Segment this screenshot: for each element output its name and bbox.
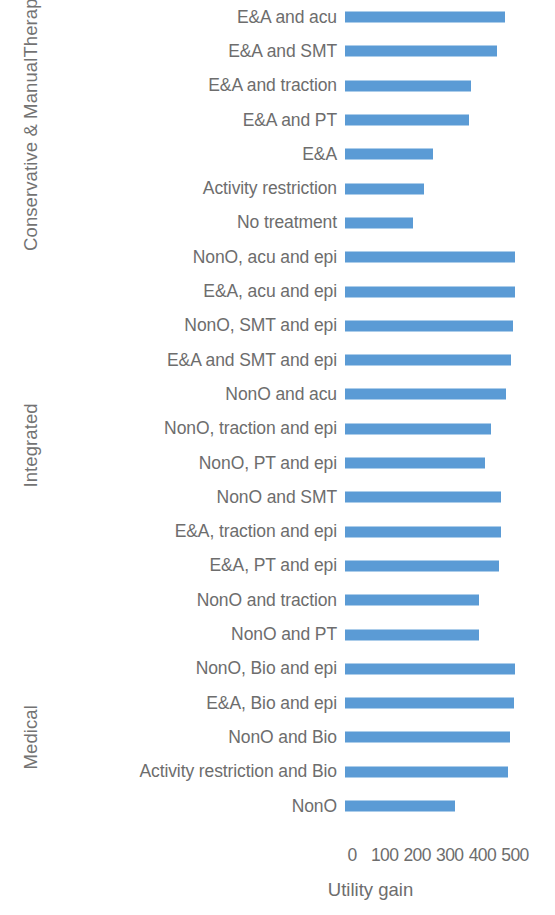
x-tick-label: 500	[501, 845, 528, 866]
category-label: NonO	[62, 796, 345, 817]
bar-track	[345, 274, 555, 308]
bar-row: NonO and SMT	[62, 480, 555, 514]
bar-track	[345, 720, 555, 754]
category-label: E&A, PT and epi	[62, 555, 345, 576]
group-label-conservative-manual-therapy: Conservative & ManualTherapy	[2, 0, 60, 240]
plot-area: E&A and acuE&A and SMTE&A and tractionE&…	[62, 0, 555, 845]
bar-row: NonO, traction and epi	[62, 412, 555, 446]
bar	[345, 423, 491, 434]
bar-row: E&A and acu	[62, 0, 555, 34]
category-label: NonO and Bio	[62, 727, 345, 748]
bar	[345, 115, 469, 126]
bar-track	[345, 412, 555, 446]
bar-row: Activity restriction	[62, 172, 555, 206]
category-label: NonO, acu and epi	[62, 247, 345, 268]
category-label: NonO, SMT and epi	[62, 315, 345, 336]
bar-row: E&A, Bio and epi	[62, 686, 555, 720]
bar-track	[345, 377, 555, 411]
bar-track	[345, 686, 555, 720]
bar-track	[345, 549, 555, 583]
bar	[345, 320, 513, 331]
category-label: NonO and acu	[62, 384, 345, 405]
bar-row: NonO	[62, 789, 555, 823]
bar-row: NonO and Bio	[62, 720, 555, 754]
bar	[345, 629, 479, 640]
bar-row: NonO and traction	[62, 583, 555, 617]
category-label: E&A and SMT	[62, 41, 345, 62]
x-axis-title: Utility gain	[62, 879, 555, 901]
bar-row: NonO and acu	[62, 377, 555, 411]
category-label: E&A	[62, 144, 345, 165]
category-label: No treatment	[62, 212, 345, 233]
x-axis-title-text: Utility gain	[328, 879, 413, 901]
category-label: E&A and SMT and epi	[62, 350, 345, 371]
bar	[345, 663, 515, 674]
category-label: NonO, Bio and epi	[62, 658, 345, 679]
bar-row: E&A, PT and epi	[62, 549, 555, 583]
bar	[345, 526, 501, 537]
bar-track	[345, 137, 555, 171]
value-axis: 0100200300400500	[62, 845, 555, 873]
category-label: NonO and PT	[62, 624, 345, 645]
bar	[345, 458, 485, 469]
group-label-line: Therapy	[20, 0, 42, 58]
category-label: NonO, traction and epi	[62, 418, 345, 439]
group-label-line: Conservative & Manual	[20, 58, 42, 251]
category-label: Activity restriction	[62, 178, 345, 199]
bar-track	[345, 240, 555, 274]
bar-track	[345, 480, 555, 514]
bar-row: E&A and SMT	[62, 34, 555, 68]
group-label-integrated: Integrated	[14, 240, 48, 652]
bar-track	[345, 515, 555, 549]
category-label: E&A and traction	[62, 75, 345, 96]
bar-row: E&A	[62, 137, 555, 171]
bar	[345, 46, 497, 57]
bar-row: NonO, PT and epi	[62, 446, 555, 480]
bar-row: No treatment	[62, 206, 555, 240]
x-tick-label: 400	[469, 845, 496, 866]
bar	[345, 12, 505, 23]
bar-track	[345, 343, 555, 377]
bar-track	[345, 309, 555, 343]
utility-gain-bar-chart: Conservative & ManualTherapy Integrated …	[0, 0, 555, 915]
category-label: E&A and PT	[62, 110, 345, 131]
bar	[345, 766, 508, 777]
group-label-medical: Medical	[14, 652, 48, 824]
bar-row: E&A, acu and epi	[62, 274, 555, 308]
category-label: NonO and traction	[62, 590, 345, 611]
bar-track	[345, 617, 555, 651]
bar	[345, 252, 515, 263]
bar-row: Activity restriction and Bio	[62, 755, 555, 789]
bar	[345, 355, 511, 366]
bar	[345, 217, 413, 228]
bar-track	[345, 446, 555, 480]
bar-track	[345, 172, 555, 206]
bar-row: E&A, traction and epi	[62, 515, 555, 549]
bar-track	[345, 103, 555, 137]
bar	[345, 286, 515, 297]
category-label: E&A, Bio and epi	[62, 693, 345, 714]
bar-track	[345, 206, 555, 240]
x-tick-label: 200	[403, 845, 430, 866]
bar	[345, 801, 455, 812]
bar	[345, 80, 471, 91]
bar-row: E&A and traction	[62, 69, 555, 103]
category-label: Activity restriction and Bio	[62, 761, 345, 782]
bar	[345, 595, 479, 606]
category-label: E&A, acu and epi	[62, 281, 345, 302]
bar-track	[345, 583, 555, 617]
bar	[345, 492, 501, 503]
category-label: E&A and acu	[62, 7, 345, 28]
bar-track	[345, 69, 555, 103]
bar	[345, 732, 510, 743]
bar	[345, 149, 433, 160]
bar-row: NonO and PT	[62, 617, 555, 651]
bar-track	[345, 34, 555, 68]
bar-track	[345, 755, 555, 789]
group-category-axis: Conservative & ManualTherapy Integrated …	[0, 0, 62, 845]
bar-row: E&A and PT	[62, 103, 555, 137]
bar	[345, 183, 424, 194]
x-tick-label: 100	[371, 845, 398, 866]
bar	[345, 560, 499, 571]
bar-track	[345, 0, 555, 34]
